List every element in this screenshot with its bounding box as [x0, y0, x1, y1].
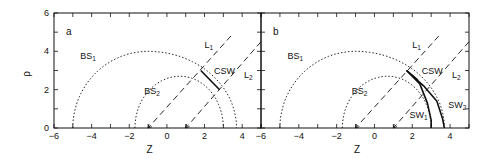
label-csw: CSW [214, 66, 236, 76]
panel-b: −6−4−2024ZbBS1BS2L1L2CSWSW1SW2 [256, 13, 469, 155]
label-csw: CSW [422, 66, 444, 76]
panel-label: b [273, 26, 279, 37]
x-tick-label: −4 [87, 131, 97, 141]
streamline-l2 [393, 42, 469, 128]
x-axis-label: Z [354, 144, 360, 155]
figure: −6−4−20240246ρZaBS1BS2L1L2CSW−6−4−2024Zb… [0, 0, 492, 161]
streamline-l2 [186, 42, 261, 128]
bow-shock-bs2-curve [135, 76, 224, 128]
x-tick-label: 4 [240, 131, 245, 141]
panel-label: a [66, 26, 72, 37]
label-l1: L1 [205, 40, 214, 51]
label-bs2: BS2 [352, 86, 368, 97]
x-tick-label: −4 [294, 131, 304, 141]
label-sw1: SW1 [409, 110, 428, 121]
x-tick-label: −2 [124, 131, 134, 141]
label-sw2: SW2 [448, 100, 467, 111]
x-tick-label: 0 [372, 131, 377, 141]
x-tick-label: −6 [49, 131, 59, 141]
streamline-l1 [148, 36, 231, 128]
y-tick-label: 4 [44, 46, 49, 56]
x-tick-label: −2 [332, 131, 342, 141]
x-tick-label: 0 [164, 131, 169, 141]
x-tick-label: −6 [256, 131, 266, 141]
y-axis-label: ρ [21, 71, 32, 77]
panel-a: −6−4−20240246ρZaBS1BS2L1L2CSW [21, 8, 261, 155]
x-tick-label: 2 [410, 131, 415, 141]
x-axis-label: Z [146, 144, 152, 155]
label-bs2: BS2 [144, 86, 160, 97]
label-bs1: BS1 [80, 51, 96, 62]
y-tick-label: 2 [44, 85, 49, 95]
label-l1: L1 [412, 40, 421, 51]
label-l2: L2 [244, 70, 253, 81]
label-l2: L2 [452, 70, 461, 81]
label-bs1: BS1 [287, 51, 303, 62]
x-tick-label: 4 [448, 131, 453, 141]
y-tick-label: 6 [44, 8, 49, 18]
x-tick-label: 2 [202, 131, 207, 141]
y-tick-label: 0 [44, 123, 49, 133]
